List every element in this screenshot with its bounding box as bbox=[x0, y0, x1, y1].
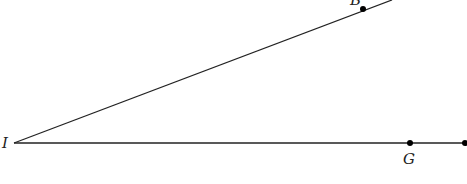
angle-diagram: I B G bbox=[0, 0, 467, 184]
label-B: B bbox=[349, 0, 361, 9]
label-I: I bbox=[1, 134, 9, 152]
ray-IB bbox=[14, 0, 392, 143]
point-G bbox=[407, 140, 413, 146]
ray-end-point bbox=[462, 140, 467, 146]
label-G: G bbox=[403, 150, 415, 168]
